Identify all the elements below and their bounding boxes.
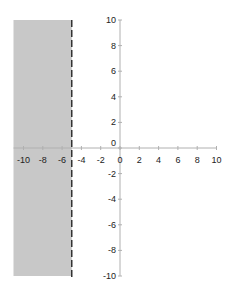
x-tick-label: 4 [156,155,161,165]
y-tick-label: 2 [111,117,116,127]
y-tick-label: -8 [108,245,116,255]
inequality-graph: -10-8-6-4-202468101086420-2-4-6-8-10 [0,0,235,299]
x-tick-label: -4 [77,155,85,165]
x-tick-label: 8 [195,155,200,165]
y-tick-label: 0 [111,138,116,148]
x-tick-label: -8 [39,155,47,165]
y-tick-label: 6 [111,66,116,76]
y-tick-label: -2 [108,169,116,179]
x-tick-label: -6 [58,155,66,165]
x-tick-label: -10 [17,155,30,165]
x-tick-label: 2 [137,155,142,165]
x-tick-label: 0 [117,155,122,165]
y-tick-label: 8 [111,41,116,51]
y-tick-label: -6 [108,220,116,230]
x-tick-label: 6 [175,155,180,165]
y-tick-label: 10 [106,15,116,25]
x-tick-label: 10 [211,155,221,165]
x-tick-label: -2 [97,155,105,165]
y-tick-label: -10 [103,271,116,281]
y-tick-label: -4 [108,194,116,204]
y-tick-label: 4 [111,92,116,102]
